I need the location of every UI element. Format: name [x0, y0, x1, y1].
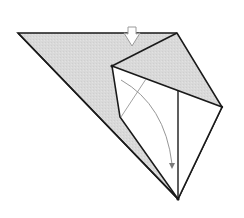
vertex-dot-inner: [110, 64, 113, 67]
fold-diagram-canvas: [0, 0, 244, 218]
vertex-dot-bottom: [176, 197, 179, 200]
vertex-dot-right: [221, 106, 223, 108]
